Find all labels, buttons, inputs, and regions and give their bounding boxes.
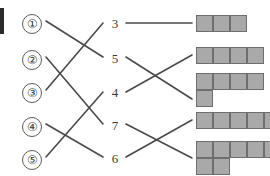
- connector-left-mid-5: [46, 92, 103, 157]
- shape-cell: [230, 47, 247, 64]
- circled-number-4[interactable]: ④: [22, 117, 42, 137]
- circled-number-2[interactable]: ②: [22, 50, 42, 70]
- shape-cell: [264, 141, 270, 158]
- circled-number-3[interactable]: ③: [22, 83, 42, 103]
- connector-mid-right-3: [126, 55, 192, 92]
- shape-cell: [196, 90, 213, 107]
- shape-cell: [247, 112, 264, 129]
- connector-mid-right-2: [126, 57, 192, 99]
- shape-cell: [213, 141, 230, 158]
- shape-cell: [230, 15, 247, 32]
- count-number-4[interactable]: 7: [108, 118, 122, 134]
- shape-cell: [247, 47, 264, 64]
- connector-mid-right-5: [126, 120, 192, 157]
- shape-cell: [247, 73, 264, 90]
- shape-cell: [213, 112, 230, 129]
- shape-cell: [196, 112, 213, 129]
- shape-cell: [213, 73, 230, 90]
- count-number-1[interactable]: 3: [108, 16, 122, 32]
- count-number-2[interactable]: 5: [108, 51, 122, 67]
- shape-cell: [230, 112, 247, 129]
- shape-cell: [196, 73, 213, 90]
- diagram-canvas: ①②③④⑤ 35476: [0, 0, 270, 176]
- shape-cell: [230, 141, 247, 158]
- shape-cell: [213, 158, 230, 175]
- shape-cell: [213, 15, 230, 32]
- shape-cell: [196, 15, 213, 32]
- shape-cell: [196, 158, 213, 175]
- shape-cell: [213, 47, 230, 64]
- connector-left-mid-4: [46, 124, 103, 157]
- shape-cell: [247, 141, 264, 158]
- connector-left-mid-3: [46, 23, 103, 90]
- count-number-5[interactable]: 6: [108, 151, 122, 167]
- count-number-3[interactable]: 4: [108, 85, 122, 101]
- connector-left-mid-2: [46, 57, 103, 124]
- connector-left-mid-1: [46, 21, 103, 57]
- circled-number-1[interactable]: ①: [22, 14, 42, 34]
- circled-number-5[interactable]: ⑤: [22, 150, 42, 170]
- shape-cell: [230, 73, 247, 90]
- connector-mid-right-4: [126, 124, 192, 158]
- shape-cell: [196, 141, 213, 158]
- shape-cell: [264, 112, 270, 129]
- shape-cell: [196, 47, 213, 64]
